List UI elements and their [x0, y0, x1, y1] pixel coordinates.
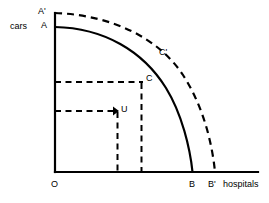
label-a-prime: A': [38, 7, 46, 16]
x-axis-label-hospitals: hospitals: [223, 180, 259, 189]
label-u: U: [121, 105, 128, 114]
expanded-ppf-curve: [55, 13, 215, 172]
ppf-diagram: A' cars A C' C U O B B' hospitals: [0, 0, 269, 203]
label-origin: O: [51, 180, 58, 189]
label-b: B: [189, 180, 195, 189]
label-c: C: [146, 74, 153, 83]
label-c-prime: C': [159, 48, 167, 57]
y-axis-label-cars: cars: [10, 22, 27, 31]
original-ppf-curve: [55, 27, 193, 172]
label-b-prime: B': [208, 180, 216, 189]
label-a: A: [41, 21, 47, 30]
ppf-chart-canvas: [0, 0, 269, 203]
